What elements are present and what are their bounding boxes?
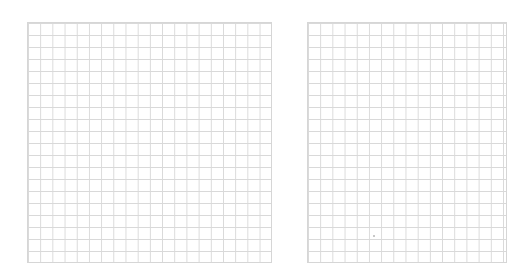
stray-mark (373, 235, 375, 237)
graph-paper-grid-right (307, 22, 507, 263)
graph-paper-grid-left (27, 22, 272, 263)
